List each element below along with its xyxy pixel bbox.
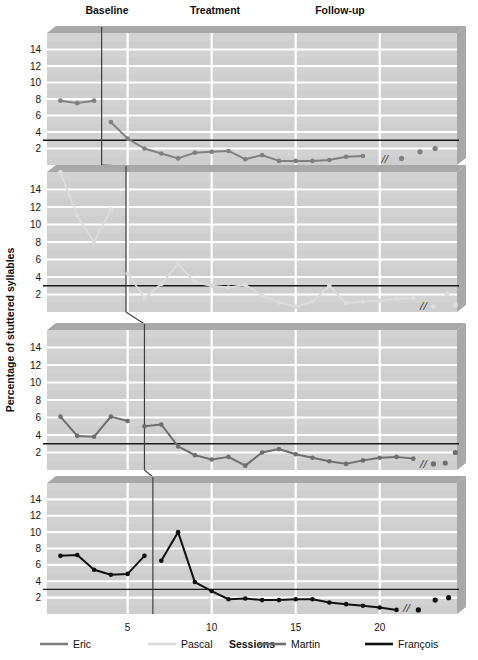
y-tick-label: 6 xyxy=(35,559,41,570)
treatment-point xyxy=(361,154,366,159)
treatment-point xyxy=(277,300,282,305)
treatment-point xyxy=(176,444,181,449)
treatment-point xyxy=(344,602,349,607)
treatment-point xyxy=(327,459,332,464)
followup-point xyxy=(417,149,422,154)
baseline-point xyxy=(125,419,130,424)
y-tick-label: 14 xyxy=(30,342,42,353)
y-tick-label: 2 xyxy=(35,447,41,458)
followup-point xyxy=(431,304,436,309)
plot-band xyxy=(47,233,457,242)
panel-pascal: 2468101214// xyxy=(30,165,466,324)
treatment-point xyxy=(377,455,382,460)
y-tick-label: 10 xyxy=(30,527,42,538)
treatment-point xyxy=(394,455,399,460)
panel-right-bevel xyxy=(457,165,466,312)
plot-band xyxy=(47,268,457,277)
legend-item-eric[interactable]: Eric xyxy=(40,638,91,650)
baseline-point xyxy=(92,98,97,103)
y-tick-label: 10 xyxy=(30,219,42,230)
treatment-point xyxy=(226,285,231,290)
followup-point xyxy=(433,146,438,151)
phase-label-baseline: Baseline xyxy=(85,4,128,16)
baseline-point xyxy=(109,414,114,419)
treatment-point xyxy=(159,422,164,427)
y-axis-title: Percentage of stuttered syllables xyxy=(4,248,16,413)
treatment-point xyxy=(209,283,214,288)
treatment-point xyxy=(193,453,198,458)
y-tick-label: 14 xyxy=(30,184,42,195)
panel-franois: 2468101214// xyxy=(30,476,466,615)
plot-band xyxy=(47,74,457,82)
treatment-point xyxy=(243,283,248,288)
followup-point xyxy=(443,460,448,465)
baseline-point xyxy=(92,240,97,245)
baseline-point xyxy=(125,572,130,577)
plot-band xyxy=(47,216,457,225)
plot-band xyxy=(47,140,457,148)
plot-band xyxy=(47,426,457,435)
treatment-point xyxy=(327,283,332,288)
treatment-point xyxy=(109,120,114,125)
y-tick-label: 12 xyxy=(30,510,42,521)
treatment-point xyxy=(193,280,198,285)
legend-label: Martin xyxy=(291,638,320,650)
plot-band xyxy=(47,303,457,312)
followup-point xyxy=(453,302,458,307)
treatment-point xyxy=(361,604,366,609)
treatment-point xyxy=(293,452,298,457)
plot-band xyxy=(47,461,457,470)
plot-band xyxy=(47,251,457,260)
x-tick-label: 5 xyxy=(125,622,131,633)
treatment-point xyxy=(394,608,399,613)
treatment-point xyxy=(142,146,147,151)
treatment-point xyxy=(142,424,147,429)
treatment-point xyxy=(226,149,231,154)
baseline-point xyxy=(58,414,63,419)
plot-band xyxy=(47,374,457,383)
treatment-point xyxy=(394,297,399,302)
phase-line-connector xyxy=(144,470,152,477)
y-tick-label: 10 xyxy=(30,377,42,388)
treatment-point xyxy=(277,159,282,164)
treatment-point xyxy=(260,450,265,455)
y-tick-label: 4 xyxy=(35,430,41,441)
y-tick-label: 6 xyxy=(35,412,41,423)
treatment-point xyxy=(293,159,298,164)
y-tick-label: 10 xyxy=(30,77,42,88)
treatment-point xyxy=(327,158,332,163)
baseline-point xyxy=(58,170,63,175)
treatment-point xyxy=(260,153,265,158)
plot-band xyxy=(47,444,457,453)
followup-point xyxy=(453,450,458,455)
treatment-point xyxy=(310,159,315,164)
legend-item-pascal[interactable]: Pascal xyxy=(148,638,213,650)
treatment-point xyxy=(159,282,164,287)
baseline-point xyxy=(75,434,80,439)
y-tick-label: 12 xyxy=(30,61,42,72)
legend-label: Eric xyxy=(73,638,91,650)
plot-band xyxy=(47,508,457,516)
treatment-point xyxy=(260,598,265,603)
followup-point xyxy=(444,291,449,296)
panel-top-bevel xyxy=(47,165,466,172)
multiple-baseline-chart: BaselineTreatmentFollow-upPercentage of … xyxy=(0,0,478,660)
y-tick-label: 14 xyxy=(30,44,42,55)
treatment-point xyxy=(310,299,315,304)
phase-header-row: BaselineTreatmentFollow-up xyxy=(85,4,364,16)
legend-item-franois[interactable]: François xyxy=(365,638,438,650)
y-tick-label: 12 xyxy=(30,202,42,213)
y-tick-label: 14 xyxy=(30,494,42,505)
treatment-point xyxy=(243,463,248,468)
panel-right-bevel xyxy=(457,476,466,614)
y-tick-label: 4 xyxy=(35,127,41,138)
y-tick-label: 8 xyxy=(35,543,41,554)
treatment-point xyxy=(293,304,298,309)
panel-right-bevel xyxy=(457,26,466,165)
legend-label: Pascal xyxy=(181,638,213,650)
baseline-point xyxy=(75,213,80,218)
plot-band xyxy=(47,589,457,597)
baseline-point xyxy=(109,207,114,212)
y-tick-label: 8 xyxy=(35,237,41,248)
treatment-point xyxy=(344,154,349,159)
